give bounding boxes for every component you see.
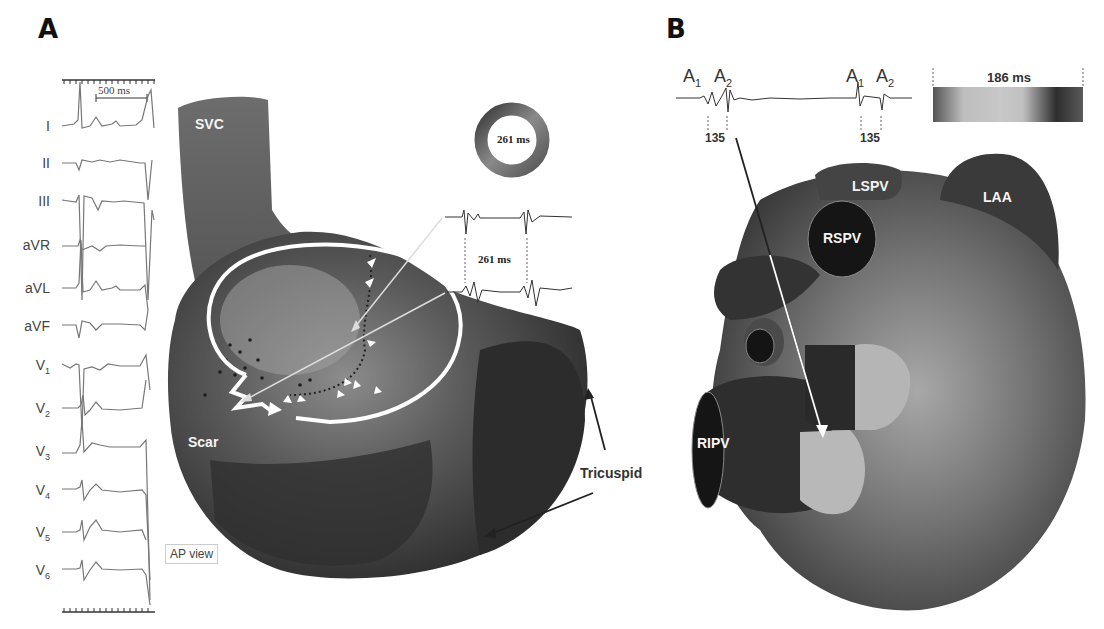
panel-b-left-atrium-map — [0, 0, 1104, 629]
marker-a2-first: A2 — [714, 66, 732, 89]
label-lspv: LSPV — [852, 178, 889, 194]
interval-label-second: 135 — [860, 131, 880, 145]
marker-a2-second: A2 — [876, 66, 894, 89]
color-bar-label: 186 ms — [987, 70, 1031, 85]
label-laa: LAA — [983, 189, 1012, 205]
label-ripv: RIPV — [697, 435, 730, 451]
marker-a1-first: A1 — [683, 66, 701, 89]
label-rspv: RSPV — [823, 230, 861, 246]
marker-a1-second: A1 — [846, 66, 864, 89]
interval-label-first: 135 — [705, 131, 725, 145]
